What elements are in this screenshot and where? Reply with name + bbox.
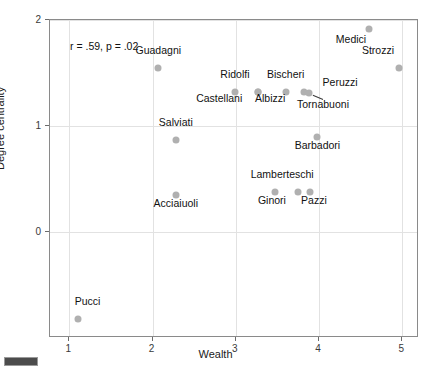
data-point-label: Bischeri (267, 68, 304, 80)
data-point-label: Ginori (258, 194, 286, 206)
x-axis-title: Wealth (0, 348, 431, 360)
data-point (74, 315, 81, 322)
x-tick-mark (318, 337, 319, 341)
x-tick-mark (68, 337, 69, 341)
y-tick-label: 2 (27, 14, 41, 25)
gridline-vertical (153, 20, 154, 336)
data-point-label: Castellani (196, 92, 242, 104)
data-point (396, 64, 403, 71)
gridline-vertical (319, 20, 320, 336)
x-tick-mark (152, 337, 153, 341)
x-tick-mark (235, 337, 236, 341)
data-point-label: Ridolfi (220, 68, 249, 80)
gridline-vertical (69, 20, 70, 336)
x-tick-mark (401, 337, 402, 341)
gridline-horizontal (50, 20, 417, 21)
data-point-label: Lamberteschi (251, 168, 314, 180)
gridline-horizontal (50, 126, 417, 127)
data-point-label: Salviati (159, 116, 193, 128)
data-point-label: Pazzi (301, 194, 327, 206)
chart-root: MediciStrozziGuadagniRidolfiBischeriCast… (0, 0, 431, 371)
correlation-annotation: r = .59, p = .02 (70, 40, 138, 52)
y-tick-label: 1 (27, 120, 41, 131)
data-point-label: Medici (336, 33, 366, 45)
data-point-label: Peruzzi (323, 76, 358, 88)
plot-area: MediciStrozziGuadagniRidolfiBischeriCast… (49, 19, 418, 337)
corner-ui-chip (4, 357, 38, 366)
data-point-label: Acciaiuoli (154, 197, 198, 209)
data-point-label: Albizzi (255, 92, 285, 104)
data-point (172, 136, 179, 143)
data-point (366, 25, 373, 32)
data-point-label: Guadagni (136, 44, 182, 56)
data-point (155, 64, 162, 71)
y-tick-mark (45, 125, 49, 126)
data-point-label: Barbadori (295, 139, 341, 151)
gridline-horizontal (50, 232, 417, 233)
data-point (306, 90, 313, 97)
y-tick-mark (45, 19, 49, 20)
y-tick-mark (45, 231, 49, 232)
data-point-label: Tornabuoni (297, 98, 349, 110)
y-tick-label: 0 (27, 226, 41, 237)
data-point-label: Pucci (75, 295, 101, 307)
y-axis-title: Degree centrality (0, 87, 6, 170)
data-point-label: Strozzi (362, 44, 394, 56)
